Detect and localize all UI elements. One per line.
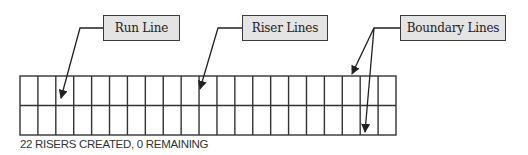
riser-lines-label: Riser Lines [242,15,328,41]
riser-grid [20,76,396,135]
stair-riser-diagram: Run Line Riser Lines Boundary Lines 22 R… [0,0,528,155]
boundary-lines-label: Boundary Lines [400,15,506,41]
status-text: 22 RISERS CREATED, 0 REMAINING [20,138,208,150]
riser-lines-leader [200,28,242,89]
boundary-lines-leader [352,28,400,132]
run-line-leader [61,28,103,98]
run-line-label: Run Line [103,15,180,41]
